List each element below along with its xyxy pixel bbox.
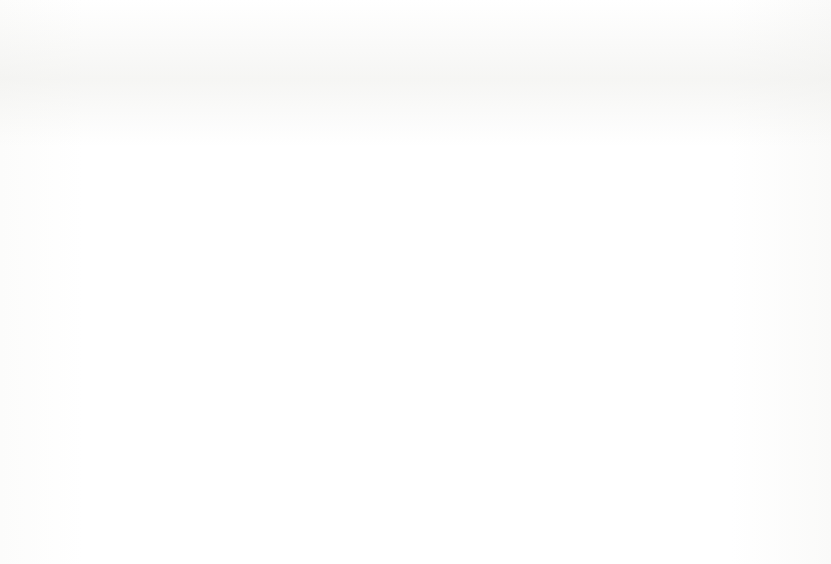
vertical-hatch-square-icon: [628, 185, 641, 198]
chart-figure: 0%10%20%30%40%50%60%70%80%90%100% DoorsD…: [0, 0, 831, 564]
bar-stack: [212, 35, 235, 343]
bar-segment: [355, 35, 378, 328]
figure-caption: ure 12.5: Current rates for fittings.: [0, 525, 520, 546]
bar-stack: [260, 35, 283, 343]
x-axis-tick-mark: [152, 344, 153, 350]
bar-segment: [260, 189, 283, 257]
x-axis-tick-mark: [342, 344, 343, 350]
bar-stack: [117, 35, 140, 343]
y-axis-tick-mark: [98, 159, 104, 160]
y-axis-tick-mark: [98, 344, 104, 345]
y-axis-tick-label: 100%: [26, 28, 92, 46]
legend-item: Reuse off site: [628, 180, 778, 202]
bar-segment: [307, 35, 330, 161]
bar-segment: [402, 235, 425, 343]
bar-segment: [402, 127, 425, 235]
y-axis-tick-mark: [98, 190, 104, 191]
y-axis-tick-mark: [98, 98, 104, 99]
bar-segment: [260, 257, 283, 343]
legend-item-label: Landfill: [650, 117, 699, 133]
x-axis-tick-mark: [532, 344, 533, 350]
horizontal-hatch-square-icon: [628, 207, 641, 220]
bar-stack: [307, 35, 330, 343]
y-axis-tick-label: 0%: [26, 336, 92, 354]
legend-item: Recycle on site: [628, 158, 778, 180]
y-axis-tick-label: 10%: [26, 305, 92, 323]
x-axis-tick-mark: [437, 344, 438, 350]
bar-segment: [450, 186, 473, 257]
y-axis-tick-label: 40%: [26, 213, 92, 231]
bar-segment: [260, 35, 283, 186]
bar-segment: [260, 186, 283, 189]
bar-segment: [402, 35, 425, 106]
bar-segment: [117, 35, 140, 343]
x-axis-tick-mark: [247, 344, 248, 350]
black-solid-square-icon: [628, 119, 641, 132]
y-axis-tick-label: 70%: [26, 120, 92, 138]
y-axis-tick-label: 50%: [26, 182, 92, 200]
y-axis-tick-label: 80%: [26, 90, 92, 108]
y-axis-tick-label: 90%: [26, 59, 92, 77]
bar-segment: [497, 35, 520, 300]
white-dotted-square-icon: [628, 141, 641, 154]
bar-segment: [545, 340, 568, 343]
bar-segment: [450, 143, 473, 186]
bar-segment: [545, 35, 568, 291]
figure-caption-text: Current rates for fittings.: [70, 525, 244, 545]
figure-caption-number: ure 12.5:: [0, 525, 66, 545]
bar-stack: [497, 35, 520, 343]
bar-segment: [212, 35, 235, 309]
legend-item-label: Reuse off site: [650, 183, 745, 199]
y-axis-tick-label: 60%: [26, 151, 92, 169]
bar-stack: [165, 35, 188, 343]
bar-segment: [402, 106, 425, 128]
y-axis-tick-label: 30%: [26, 244, 92, 262]
y-axis-tick-mark: [98, 36, 104, 37]
bar-segment: [165, 328, 188, 343]
y-axis-tick-mark: [98, 252, 104, 253]
y-axis-tick-mark: [98, 128, 104, 129]
bar-segment: [307, 186, 330, 254]
y-axis-tick-mark: [98, 221, 104, 222]
legend-item: Recycle off site: [628, 136, 778, 158]
y-axis-tick-mark: [98, 313, 104, 314]
legend-item: Landfill: [628, 114, 778, 136]
chart-legend: LandfillRecycle off siteRecycle on siteR…: [617, 104, 787, 235]
y-axis-tick-mark: [98, 67, 104, 68]
bar-segment: [450, 35, 473, 143]
legend-item-label: Reuse on site: [650, 205, 745, 221]
y-axis-tick-label: 20%: [26, 274, 92, 292]
black-dotted-square-icon: [628, 163, 641, 176]
legend-item: Reuse on site: [628, 202, 778, 224]
bar-segment: [165, 35, 188, 328]
bar-segment: [307, 161, 330, 186]
y-axis-tick-mark: [98, 282, 104, 283]
legend-item-label: Recycle off site: [650, 139, 755, 155]
legend-item-label: Recycle on site: [650, 161, 755, 177]
bar-stack: [402, 35, 425, 343]
bar-segment: [355, 328, 378, 343]
